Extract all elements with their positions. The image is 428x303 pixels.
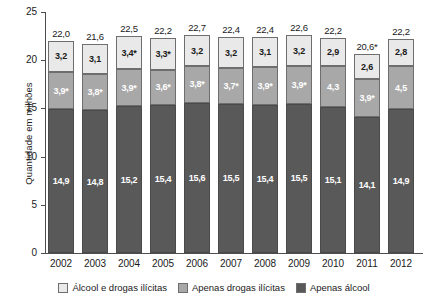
stacked-bar-chart: Quantidade em milhões 0510152025 14,93,9…: [0, 0, 428, 303]
legend-label: Apenas drogas ilícitas: [192, 282, 285, 293]
bar-segment-drugs-2005: 3,6*: [150, 70, 176, 105]
bar-segment-drugs-2010: 4,3: [320, 66, 346, 107]
legend-swatch-icon: [58, 283, 68, 293]
bar-total-label-2004: 22,5: [110, 23, 148, 34]
bar-segment-drugs-2012: 4,5: [388, 66, 414, 109]
bar-segment-both-2002: 3,2: [48, 41, 74, 72]
bar-segment-alcohol-2005: 15,4: [150, 105, 176, 253]
y-tick-label: 20: [10, 54, 37, 65]
bar-segment-both-2010: 2,9: [320, 38, 346, 66]
bar-segment-alcohol-2007: 15,5: [218, 104, 244, 253]
bar-segment-drugs-2002: 3,9*: [48, 72, 74, 110]
x-axis-line: [45, 253, 423, 254]
bar-total-label-2010: 22,2: [314, 25, 352, 36]
x-tick-label-2012: 2012: [381, 258, 421, 269]
legend-item[interactable]: Álcool e drogas ilícitas: [58, 282, 167, 293]
bar-segment-drugs-2003: 3,8*: [82, 74, 108, 111]
legend-label: Álcool e drogas ilícitas: [72, 282, 167, 293]
bar-segment-alcohol-2009: 15,5: [286, 104, 312, 253]
y-tick-label: 10: [10, 151, 37, 162]
bar-segment-drugs-2008: 3,9*: [252, 67, 278, 105]
bar-segment-alcohol-2010: 15,1: [320, 107, 346, 253]
bar-segment-both-2003: 3,1: [82, 44, 108, 74]
y-tick-label: 0: [10, 247, 37, 258]
bar-segment-both-2012: 2,8: [388, 39, 414, 66]
bar-segment-alcohol-2008: 15,4: [252, 105, 278, 253]
bar-segment-drugs-2011: 3,9*: [354, 79, 380, 117]
bar-segment-alcohol-2003: 14,8: [82, 110, 108, 253]
bar-segment-both-2006: 3,2: [184, 35, 210, 66]
bar-total-label-2007: 22,4: [212, 24, 250, 35]
bar-segment-drugs-2009: 3,9*: [286, 66, 312, 104]
bar-segment-both-2011: 2,6: [354, 54, 380, 79]
bar-segment-alcohol-2004: 15,2: [116, 106, 142, 253]
bar-segment-alcohol-2011: 14,1: [354, 117, 380, 253]
bar-segment-both-2007: 3,2: [218, 37, 244, 68]
bar-total-label-2005: 22,2: [144, 25, 182, 36]
bar-total-label-2006: 22,7: [178, 22, 216, 33]
bar-segment-alcohol-2006: 15,6: [184, 103, 210, 253]
chart-legend: Álcool e drogas ilícitasApenas drogas il…: [0, 282, 428, 293]
bar-segment-drugs-2006: 3,8*: [184, 66, 210, 103]
bar-segment-drugs-2004: 3,9*: [116, 69, 142, 107]
plot-area: 14,93,9*3,222,014,83,8*3,121,615,23,9*3,…: [46, 12, 422, 253]
legend-label: Apenas álcool: [310, 282, 370, 293]
bar-total-label-2009: 22,6: [280, 22, 318, 33]
bar-total-label-2012: 22,2: [382, 26, 420, 37]
legend-swatch-icon: [178, 283, 188, 293]
bar-segment-both-2004: 3,4*: [116, 36, 142, 69]
legend-swatch-icon: [296, 283, 306, 293]
legend-item[interactable]: Apenas drogas ilícitas: [178, 282, 285, 293]
y-tick-label: 25: [10, 6, 37, 17]
bar-segment-alcohol-2002: 14,9: [48, 109, 74, 253]
bar-segment-drugs-2007: 3,7*: [218, 68, 244, 104]
legend-item[interactable]: Apenas álcool: [296, 282, 370, 293]
y-tick-label: 15: [10, 102, 37, 113]
y-axis-title: Quantidade em milhões: [23, 44, 34, 224]
bar-total-label-2008: 22,4: [246, 24, 284, 35]
bar-total-label-2003: 21,6: [76, 31, 114, 42]
bar-segment-both-2008: 3,1: [252, 37, 278, 67]
y-tick-label: 5: [10, 199, 37, 210]
bar-total-label-2011: 20,6*: [348, 41, 386, 52]
bar-segment-both-2005: 3,3*: [150, 38, 176, 70]
bar-segment-both-2009: 3,2: [286, 35, 312, 66]
bar-segment-alcohol-2012: 14,9: [388, 109, 414, 253]
bar-total-label-2002: 22,0: [42, 28, 80, 39]
